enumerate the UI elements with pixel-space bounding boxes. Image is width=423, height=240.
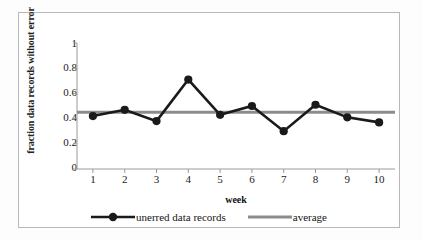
y-axis-title: fraction data records without error — [25, 1, 36, 161]
data-point — [311, 101, 319, 109]
x-tick-label: 2 — [110, 173, 140, 185]
data-point — [89, 112, 97, 120]
x-axis-title: week — [77, 194, 395, 205]
data-point — [248, 102, 256, 110]
x-tick-label: 1 — [78, 173, 108, 185]
chart-legend: unerred data records average — [19, 211, 399, 223]
legend-item-unerred-data-records: unerred data records — [91, 211, 226, 223]
y-tick-label: 0 — [51, 162, 77, 173]
data-point — [216, 111, 224, 119]
legend-line-icon — [248, 211, 292, 223]
legend-line-marker-icon — [91, 211, 135, 223]
x-tick-label: 8 — [301, 173, 331, 185]
x-tick-label: 7 — [269, 173, 299, 185]
plot-area — [77, 43, 395, 169]
data-point — [280, 127, 288, 135]
y-tick-label: 0.8 — [51, 62, 77, 73]
legend-label: unerred data records — [136, 211, 226, 223]
x-tick-label: 9 — [332, 173, 362, 185]
chart-frame: fraction data records without error 1 0.… — [18, 12, 400, 228]
legend-item-average: average — [248, 211, 327, 223]
data-point — [152, 117, 160, 125]
x-tick-label: 10 — [364, 173, 394, 185]
y-tick-label: 0.2 — [51, 137, 77, 148]
data-point — [375, 118, 383, 126]
x-tick-label: 3 — [142, 173, 172, 185]
chart-svg — [77, 43, 395, 169]
x-tick-label: 4 — [173, 173, 203, 185]
x-tick-label: 5 — [205, 173, 235, 185]
x-axis-tick-labels: 12345678910 — [77, 173, 395, 189]
x-tick-label: 6 — [237, 173, 267, 185]
data-point — [184, 75, 192, 83]
data-series-line — [93, 80, 379, 132]
y-tick-label: 0.4 — [51, 112, 77, 123]
data-point — [121, 106, 129, 114]
y-tick-label: 0.6 — [51, 87, 77, 98]
data-series-markers — [89, 75, 383, 135]
y-axis-tick-labels: 1 0.8 0.6 0.4 0.2 0 — [47, 13, 77, 227]
legend-label: average — [293, 211, 327, 223]
data-point — [343, 113, 351, 121]
chart-figure: fraction data records without error 1 0.… — [0, 0, 423, 240]
